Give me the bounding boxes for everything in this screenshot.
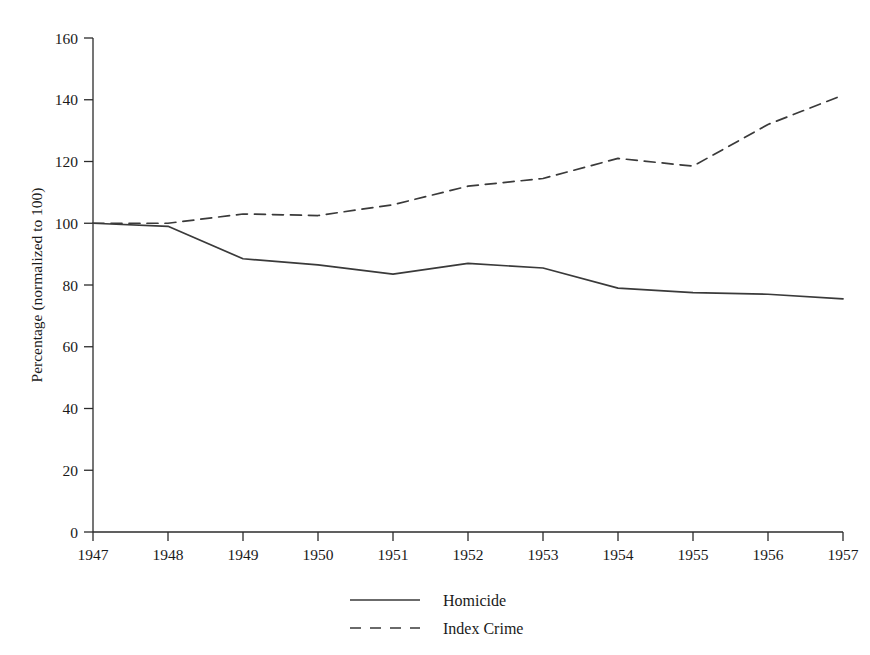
y-axis-tick-label: 0 <box>70 524 78 541</box>
x-axis-tick-label: 1948 <box>153 546 184 563</box>
y-axis-tick-label: 120 <box>55 153 79 170</box>
x-axis-tick-label: 1954 <box>603 546 634 563</box>
x-axis-tick-label: 1951 <box>378 546 409 563</box>
y-axis-tick-label: 20 <box>63 462 79 479</box>
y-axis-tick-label: 80 <box>63 277 79 294</box>
y-axis-title: Percentage (normalized to 100) <box>28 188 46 383</box>
legend-label-index-crime: Index Crime <box>443 620 523 637</box>
x-axis-tick-label: 1950 <box>303 546 334 563</box>
x-axis-tick-label: 1953 <box>528 546 559 563</box>
x-axis-tick-label: 1957 <box>828 546 859 563</box>
y-axis-tick-label: 100 <box>55 215 79 232</box>
y-axis-tick-label: 40 <box>63 400 79 417</box>
x-axis-tick-label: 1955 <box>678 546 709 563</box>
y-axis-tick-label: 60 <box>63 338 79 355</box>
chart-background <box>0 0 870 655</box>
legend-label-homicide: Homicide <box>443 592 506 609</box>
y-axis-tick-label: 140 <box>55 91 79 108</box>
x-axis-tick-label: 1949 <box>228 546 259 563</box>
x-axis-tick-label: 1956 <box>753 546 784 563</box>
x-axis-tick-label: 1952 <box>453 546 484 563</box>
line-chart: 020406080100120140160 194719481949195019… <box>0 0 870 655</box>
x-axis-tick-label: 1947 <box>78 546 109 563</box>
y-axis-tick-label: 160 <box>55 30 79 47</box>
